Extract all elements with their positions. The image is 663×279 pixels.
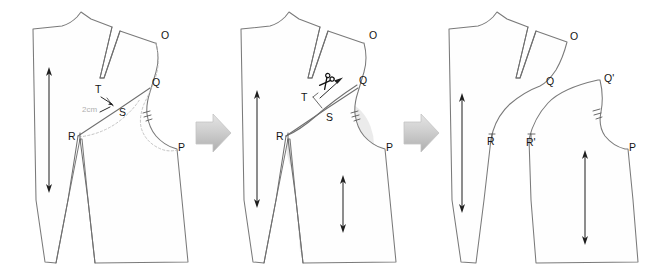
- panel2-label-P: P: [386, 141, 393, 153]
- panel3-label-O: O: [570, 30, 578, 42]
- panel2-label-T: T: [301, 91, 308, 103]
- panel-1: O Q T S R P 2cm: [33, 12, 188, 263]
- panel1-label-R: R: [68, 130, 76, 142]
- panel1-label-S: S: [119, 106, 126, 118]
- panel1-label-Q: Q: [152, 76, 160, 88]
- panel1-label-2cm: 2cm: [82, 105, 97, 114]
- panel-3: O Q Q' R R' P: [449, 12, 638, 263]
- panel3-label-R: R: [487, 135, 495, 147]
- panel1-label-O: O: [161, 29, 169, 41]
- panel2-label-S: S: [326, 111, 333, 123]
- diagram-canvas: O Q T S R P 2cm: [0, 0, 663, 279]
- panel2-label-O: O: [369, 29, 377, 41]
- panel3-label-P: P: [629, 141, 636, 153]
- panel3-right-piece-outline: [529, 80, 638, 263]
- panel2-label-R: R: [276, 130, 284, 142]
- panel3-label-Q-prime: Q': [604, 72, 614, 84]
- panel-2: O Q T S R P: [241, 12, 396, 263]
- panel1-label-T: T: [95, 83, 102, 95]
- panel3-label-R-prime: R': [526, 136, 536, 148]
- pattern-diagram-root: O Q T S R P 2cm: [0, 0, 663, 279]
- panel3-label-Q: Q: [546, 75, 554, 87]
- panel2-label-Q: Q: [359, 74, 367, 86]
- panel1-label-P: P: [178, 141, 185, 153]
- step-arrow-1-to-2: [196, 114, 231, 152]
- panel1-main-outline: [33, 12, 188, 263]
- step-arrow-2-to-3: [404, 114, 439, 152]
